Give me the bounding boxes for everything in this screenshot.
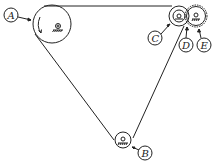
- label-c-text: C: [152, 33, 160, 44]
- gear-e: [185, 5, 207, 27]
- pulley-a: [33, 5, 71, 43]
- label-e-text: E: [200, 40, 209, 51]
- label-a-text: A: [7, 10, 15, 21]
- belt-left: [35, 34, 114, 140]
- label-b-text: B: [141, 148, 149, 159]
- label-d-text: D: [181, 40, 190, 51]
- pulley-b: [115, 132, 131, 148]
- belt-pulley-diagram: A B C D E: [0, 0, 216, 161]
